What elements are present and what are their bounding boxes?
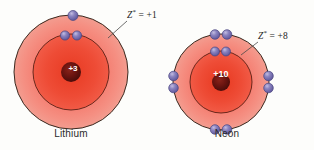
lithium-nucleus-charge-label: +3: [54, 64, 92, 73]
neon-zeff-equals: =: [269, 31, 274, 41]
electron: [72, 31, 81, 40]
electron: [210, 30, 220, 40]
neon-element-name: Neon: [168, 128, 286, 139]
neon-zeff-superscript: *: [263, 29, 267, 37]
neon-nucleus-charge-label: +10: [201, 69, 241, 79]
electron: [169, 83, 179, 93]
lithium-zeff-equals: =: [138, 10, 143, 20]
lithium-shell-2-electrons: [68, 11, 78, 21]
electron: [264, 71, 274, 81]
neon-zeff-value: +8: [277, 31, 287, 41]
electron: [264, 83, 274, 93]
electron: [60, 31, 69, 40]
atomic-diagram: Z* = +1 Z* = +8 +3 +10 Lithium Neon: [0, 0, 314, 150]
electron: [222, 47, 231, 56]
lithium-zeff-superscript: *: [132, 8, 136, 16]
electron: [222, 30, 232, 40]
atom-neon: [169, 30, 274, 135]
lithium-zeff-value: +1: [146, 10, 156, 20]
electron: [211, 47, 220, 56]
neon-zeff-label: Z* = +8: [258, 31, 288, 41]
lithium-zeff-leader-line: [108, 21, 127, 38]
electron: [169, 71, 179, 81]
electron: [68, 11, 78, 21]
lithium-zeff-label: Z* = +1: [127, 10, 157, 20]
lithium-element-name: Lithium: [0, 128, 142, 139]
